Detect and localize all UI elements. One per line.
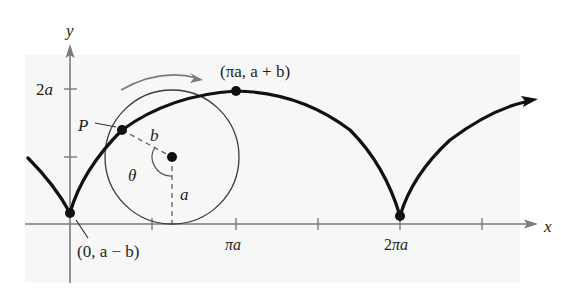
- point-p: [117, 125, 127, 135]
- point-start: [65, 208, 75, 218]
- radius-a-label: a: [180, 185, 189, 204]
- peak-point-label: (πa, a + b): [220, 62, 290, 81]
- circle-center-point: [167, 152, 177, 162]
- trochoid-diagram: y x 2a P b θ a (πa, a + b) (0, a − b) πa…: [0, 0, 561, 289]
- y-axis-label: y: [64, 21, 74, 40]
- point-cusp-2pi: [395, 211, 405, 221]
- point-p-label: P: [77, 116, 88, 135]
- x-axis-label: x: [543, 217, 552, 236]
- point-peak: [231, 86, 241, 96]
- tick-label-2a: 2a: [36, 80, 53, 99]
- angle-theta-label: θ: [128, 166, 136, 185]
- radius-b-label: b: [150, 126, 159, 145]
- start-point-label: (0, a − b): [77, 242, 139, 261]
- tick-label-2pi-a: 2πa: [384, 236, 408, 253]
- tick-label-pi-a: πa: [225, 236, 241, 253]
